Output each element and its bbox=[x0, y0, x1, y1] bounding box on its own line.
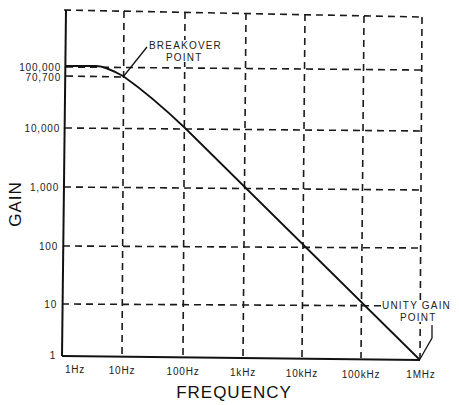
x-axis-title: FREQUENCY bbox=[176, 383, 292, 402]
y-label-1000: 1,000 bbox=[30, 182, 59, 193]
y-axis-title: GAIN bbox=[6, 181, 25, 227]
x-label-10hz: 10Hz bbox=[109, 365, 136, 376]
breakover-annotation: BREAKOVER POINT bbox=[148, 40, 222, 63]
x-tick-labels: 1Hz 10Hz 100Hz 1kHz 10kHz 100kHz 1MHz bbox=[65, 364, 436, 380]
unity-gain-label-line2: POINT bbox=[400, 312, 437, 323]
unity-gain-leader bbox=[420, 325, 432, 359]
gain-frequency-chart: 100,000 70,700 10,000 1,000 100 10 1 1Hz… bbox=[0, 0, 459, 405]
y-label-70700: 70,700 bbox=[26, 72, 61, 83]
y-label-10000: 10,000 bbox=[25, 123, 60, 134]
breakover-label-line1: BREAKOVER bbox=[149, 40, 222, 51]
x-axis bbox=[62, 356, 420, 360]
unity-gain-annotation: UNITY GAIN POINT bbox=[381, 300, 457, 323]
breakover-leader bbox=[123, 47, 147, 77]
breakover-label-line2: POINT bbox=[166, 52, 203, 63]
y-label-1: 1 bbox=[50, 350, 56, 361]
unity-gain-label-line1: UNITY GAIN bbox=[382, 300, 451, 311]
x-label-1hz: 1Hz bbox=[65, 364, 85, 375]
y-label-10: 10 bbox=[44, 299, 57, 310]
x-label-1khz: 1kHz bbox=[230, 367, 256, 378]
x-label-1mhz: 1MHz bbox=[406, 369, 435, 380]
x-label-10khz: 10kHz bbox=[286, 368, 318, 379]
y-gridlines bbox=[62, 67, 422, 306]
x-label-100hz: 100Hz bbox=[167, 366, 200, 377]
y-label-100: 100 bbox=[39, 241, 58, 252]
y-tick-labels: 100,000 70,700 10,000 1,000 100 10 1 bbox=[19, 62, 61, 361]
x-label-100khz: 100kHz bbox=[342, 369, 381, 380]
